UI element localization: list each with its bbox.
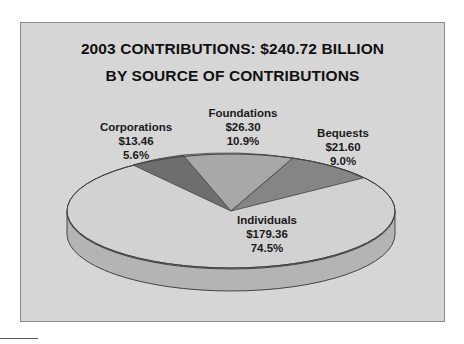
label-corporations-name: Corporations — [86, 120, 186, 134]
label-individuals: Individuals $179.36 74.5% — [217, 213, 317, 255]
pie-chart — [0, 0, 464, 344]
label-corporations: Corporations $13.46 5.6% — [86, 120, 186, 162]
label-bequests: Bequests $21.60 9.0% — [293, 126, 393, 168]
label-individuals-value: $179.36 — [217, 227, 317, 241]
label-individuals-pct: 74.5% — [217, 241, 317, 255]
label-foundations-name: Foundations — [193, 106, 293, 120]
label-bequests-name: Bequests — [293, 126, 393, 140]
label-bequests-value: $21.60 — [293, 140, 393, 154]
label-bequests-pct: 9.0% — [293, 154, 393, 168]
label-foundations: Foundations $26.30 10.9% — [193, 106, 293, 148]
label-foundations-pct: 10.9% — [193, 134, 293, 148]
label-individuals-name: Individuals — [217, 213, 317, 227]
footer-rule — [0, 338, 38, 339]
label-foundations-value: $26.30 — [193, 120, 293, 134]
label-corporations-value: $13.46 — [86, 134, 186, 148]
label-corporations-pct: 5.6% — [86, 148, 186, 162]
